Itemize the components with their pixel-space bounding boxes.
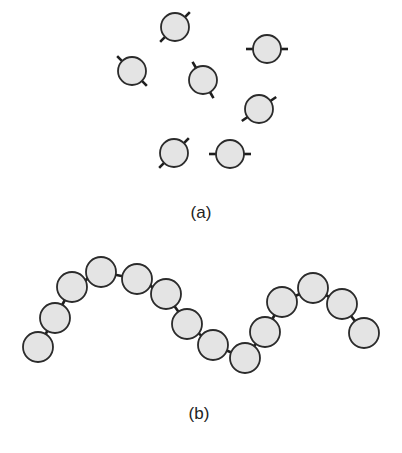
monomer-circle xyxy=(160,139,188,167)
monomer xyxy=(160,12,190,42)
chain-bead xyxy=(23,332,53,362)
chain-bead xyxy=(122,264,152,294)
chain-bead xyxy=(57,272,87,302)
monomer-polymer-diagram: (a) (b) xyxy=(0,0,402,453)
panel-b-polymer-chain xyxy=(23,257,379,373)
monomer-circle xyxy=(189,66,217,94)
monomer xyxy=(189,62,217,98)
chain-bead xyxy=(230,343,260,373)
monomer xyxy=(242,95,276,123)
chain-bead xyxy=(172,309,202,339)
chain-bead xyxy=(298,273,328,303)
monomer-circle xyxy=(245,95,273,123)
chain-bead xyxy=(151,279,181,309)
chain-bead xyxy=(267,287,297,317)
chain-bead xyxy=(198,330,228,360)
monomer-circle xyxy=(118,57,146,85)
monomer-circle xyxy=(253,35,281,63)
chain-bead xyxy=(86,257,116,287)
monomer xyxy=(159,138,189,168)
chain-bead xyxy=(40,303,70,333)
monomer-circle xyxy=(216,140,244,168)
panel-b-label: (b) xyxy=(189,404,210,423)
panel-a-monomers xyxy=(117,12,288,168)
monomer-circle xyxy=(161,13,189,41)
monomer xyxy=(209,140,251,168)
chain-bead xyxy=(327,289,357,319)
monomer xyxy=(246,35,288,63)
chain-bead xyxy=(349,318,379,348)
monomer xyxy=(117,56,147,86)
chain-bead xyxy=(250,317,280,347)
panel-a-label: (a) xyxy=(191,203,212,222)
